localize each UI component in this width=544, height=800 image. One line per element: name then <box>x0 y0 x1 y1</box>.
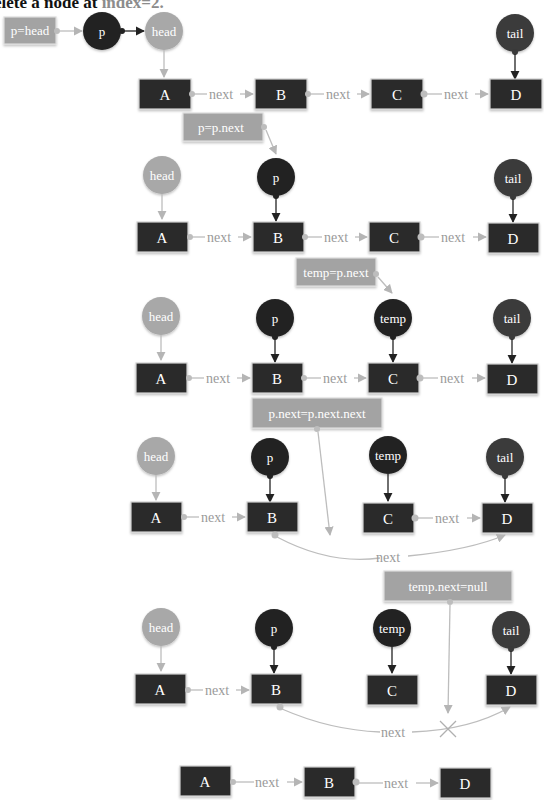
svg-text:B: B <box>276 87 286 103</box>
svg-text:p=p.next: p=p.next <box>198 120 244 135</box>
pointer-tail: tail <box>492 611 530 649</box>
svg-text:A: A <box>155 682 166 698</box>
svg-text:next: next <box>384 776 408 791</box>
pointer-temp: temp <box>373 609 411 647</box>
list-node-d: D <box>482 503 533 533</box>
svg-text:temp: temp <box>380 311 406 326</box>
svg-text:next: next <box>444 87 468 102</box>
op-box: temp=p.next <box>296 258 376 286</box>
pointer-temp: temp <box>369 436 407 474</box>
svg-text:D: D <box>511 87 522 103</box>
svg-text:next: next <box>376 550 400 565</box>
list-node-b: B <box>255 79 307 109</box>
svg-text:head: head <box>144 449 169 464</box>
list-node-c: C <box>368 363 419 393</box>
svg-text:next: next <box>207 230 231 245</box>
list-node-c: C <box>371 79 423 109</box>
svg-text:next: next <box>441 230 465 245</box>
list-node-d: D <box>487 364 538 394</box>
step-3: temp=p.next head p temp tail A B C D nex… <box>136 258 538 394</box>
svg-text:tail: tail <box>507 26 524 41</box>
svg-text:A: A <box>200 774 211 790</box>
svg-text:B: B <box>271 682 281 698</box>
svg-text:B: B <box>324 775 334 791</box>
list-node-d: D <box>488 223 539 253</box>
svg-text:B: B <box>272 371 282 387</box>
list-node-c: C <box>369 222 420 252</box>
svg-text:A: A <box>151 510 162 526</box>
svg-text:B: B <box>273 230 283 246</box>
svg-text:next: next <box>440 371 464 386</box>
svg-text:next: next <box>201 510 225 525</box>
svg-text:D: D <box>460 776 471 792</box>
svg-text:tail: tail <box>503 623 520 638</box>
svg-text:D: D <box>506 683 517 699</box>
step-4: p.next=p.next.next head p temp tail A B … <box>131 398 533 565</box>
pointer-tail: tail <box>486 438 524 476</box>
step-1: p=head p head tail A B C D next next nex… <box>4 12 542 109</box>
svg-text:head: head <box>149 309 174 324</box>
svg-text:p: p <box>271 621 278 636</box>
step-5: temp.next=null head p temp tail A B C D … <box>135 571 537 740</box>
svg-text:p: p <box>267 450 274 465</box>
pointer-p: p <box>256 299 294 337</box>
svg-text:head: head <box>152 24 177 39</box>
op-box: temp.next=null <box>384 571 512 601</box>
list-node-a: A <box>136 363 187 393</box>
linked-list-diagram: p=head p head tail A B C D next next nex… <box>0 0 544 800</box>
svg-text:p: p <box>272 311 279 326</box>
list-node-a: A <box>131 502 182 532</box>
pointer-tail: tail <box>494 159 532 197</box>
list-node-b: B <box>253 222 304 252</box>
pointer-p: p <box>255 609 293 647</box>
svg-text:A: A <box>157 230 168 246</box>
pointer-temp: temp <box>374 299 412 337</box>
svg-text:next: next <box>381 725 405 740</box>
svg-text:next: next <box>206 371 230 386</box>
svg-text:head: head <box>149 620 174 635</box>
pointer-head: head <box>142 608 180 646</box>
list-node-d: D <box>490 79 542 109</box>
list-node-d: D <box>440 768 491 798</box>
op-label: p=head <box>11 23 50 38</box>
list-node-b: B <box>252 363 303 393</box>
list-node-a: A <box>139 79 191 109</box>
pointer-head: head <box>137 437 175 475</box>
list-node-c: C <box>367 675 418 705</box>
list-node-a: A <box>137 222 188 252</box>
pointer-p: p <box>83 12 121 50</box>
svg-text:next: next <box>205 683 229 698</box>
svg-text:temp: temp <box>375 448 401 463</box>
pointer-head: head <box>142 297 180 335</box>
svg-text:next: next <box>326 87 350 102</box>
svg-text:D: D <box>507 372 518 388</box>
svg-text:C: C <box>387 683 397 699</box>
pointer-tail: tail <box>496 14 534 52</box>
svg-text:tail: tail <box>505 171 522 186</box>
list-node-c: C <box>363 503 414 533</box>
list-node-a: A <box>135 674 186 704</box>
svg-text:head: head <box>150 168 175 183</box>
svg-text:p.next=p.next.next: p.next=p.next.next <box>268 406 366 421</box>
pointer-tail: tail <box>493 299 531 337</box>
svg-text:C: C <box>392 87 402 103</box>
svg-text:A: A <box>160 87 171 103</box>
svg-text:temp.next=null: temp.next=null <box>408 579 488 594</box>
svg-text:C: C <box>389 230 399 246</box>
step-6-result: A B D next next <box>180 766 491 798</box>
list-node-d: D <box>486 675 537 705</box>
svg-text:D: D <box>502 511 513 527</box>
svg-text:B: B <box>267 510 277 526</box>
svg-text:next: next <box>209 87 233 102</box>
op-box: p=p.next <box>183 113 263 141</box>
svg-text:C: C <box>388 371 398 387</box>
svg-text:temp=p.next: temp=p.next <box>303 265 369 280</box>
pointer-p: p <box>251 438 289 476</box>
svg-text:next: next <box>323 371 347 386</box>
svg-text:D: D <box>508 231 519 247</box>
list-node-b: B <box>251 674 302 704</box>
svg-text:temp: temp <box>379 621 405 636</box>
svg-text:next: next <box>435 511 459 526</box>
list-node-b: B <box>304 767 355 797</box>
pointer-head: head <box>143 156 181 194</box>
